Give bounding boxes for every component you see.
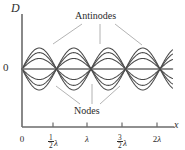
y-axis-label: D [11,2,20,14]
standing-wave-curves [22,48,173,90]
leader-line [115,24,142,45]
figure-canvas [0,0,185,150]
antinodes-label: Antinodes [75,11,116,21]
origin-label: 0 [3,62,9,73]
leader-line [100,86,120,104]
leader-line [56,86,80,104]
leader-line [53,24,82,44]
x-tick-label: 32λ [117,134,127,150]
standing-wave-figure: D x 0 Antinodes Nodes 012λλ32λ2λ [0,0,185,150]
nodes-label: Nodes [74,106,100,116]
x-tick-label: 2λ [153,134,161,144]
x-tick-label: 0 [20,134,25,144]
x-tick-label: 12λ [48,134,58,150]
x-tick-label: λ [85,134,89,144]
x-axis-label: x [174,120,178,130]
